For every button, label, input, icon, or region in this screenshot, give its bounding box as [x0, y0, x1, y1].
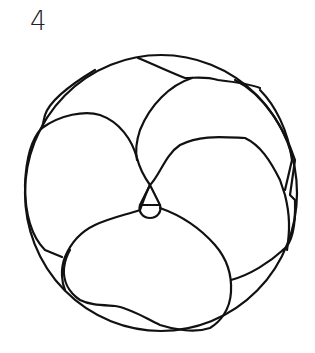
petal-top-right: [136, 78, 192, 160]
petal-bottom: [64, 208, 231, 331]
petal-top-left: [42, 113, 150, 185]
outer-outline-left: [25, 70, 95, 257]
petal-bottom-right-edge: [231, 250, 283, 280]
petal-top-left-edge: [138, 58, 260, 88]
petal-right: [150, 137, 289, 250]
flower-drawing: [0, 0, 315, 353]
center-drop: [140, 205, 161, 218]
outer-outline-right: [235, 80, 295, 250]
petal-left: [62, 185, 150, 290]
